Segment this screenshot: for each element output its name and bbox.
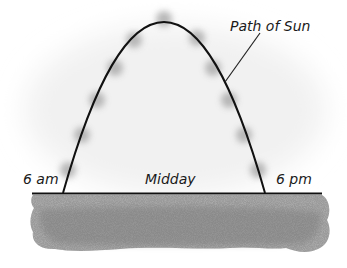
sun-dot-icon xyxy=(126,32,142,48)
sun-path-diagram: Path of Sun 6 am Midday 6 pm xyxy=(0,0,347,268)
sun-dot-icon xyxy=(156,11,172,27)
diagram-canvas xyxy=(0,0,347,268)
morning-time-label: 6 am xyxy=(23,172,59,186)
path-of-sun-label: Path of Sun xyxy=(230,19,310,33)
midday-label: Midday xyxy=(145,172,196,186)
ground xyxy=(30,194,329,252)
evening-time-label: 6 pm xyxy=(276,172,312,186)
